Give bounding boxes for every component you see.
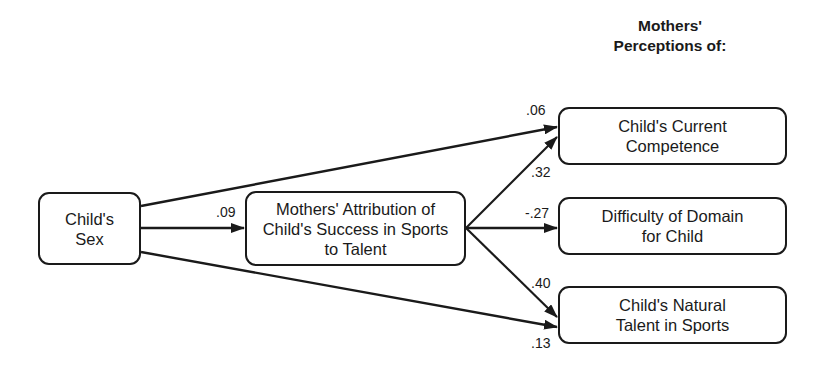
column-header: Mothers' Perceptions of: xyxy=(600,16,740,56)
coef-sex-to-competence: .06 xyxy=(526,102,545,118)
node-label: Competence xyxy=(618,136,727,156)
node-current-competence: Child's Current Competence xyxy=(558,107,787,165)
coef-attribution-to-competence: .32 xyxy=(531,164,550,180)
node-natural-talent: Child's Natural Talent in Sports xyxy=(558,286,787,344)
coef-attribution-to-talent: .40 xyxy=(531,275,550,291)
node-label: Mothers' Attribution of xyxy=(263,199,449,219)
coef-attribution-to-difficulty: -.27 xyxy=(525,205,549,221)
node-label: Child's Current xyxy=(618,116,727,136)
node-label: Talent in Sports xyxy=(616,315,730,335)
header-line-1: Mothers' xyxy=(600,16,740,36)
node-label: Child's Success in Sports xyxy=(263,219,449,239)
node-child-sex: Child's Sex xyxy=(38,192,141,265)
node-attribution: Mothers' Attribution of Child's Success … xyxy=(245,191,466,266)
arrow-attribution-to-talent xyxy=(466,228,557,317)
node-label: for Child xyxy=(602,226,744,246)
coef-sex-to-attribution: .09 xyxy=(216,204,235,220)
node-label: Child's xyxy=(65,209,114,229)
coef-sex-to-talent: .13 xyxy=(531,335,550,351)
path-diagram: Mothers' Perceptions of: Child's Sex Mot… xyxy=(0,0,832,369)
node-label: to Talent xyxy=(263,239,449,259)
node-label: Sex xyxy=(65,229,114,249)
node-label: Difficulty of Domain xyxy=(602,206,744,226)
node-difficulty: Difficulty of Domain for Child xyxy=(558,197,787,255)
node-label: Child's Natural xyxy=(616,295,730,315)
header-line-2: Perceptions of: xyxy=(600,36,740,56)
